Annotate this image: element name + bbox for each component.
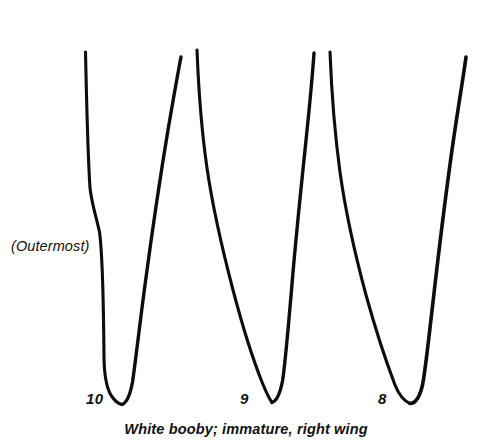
feather-10-leading-edge-path	[86, 52, 123, 405]
feather-number-10: 10	[86, 390, 103, 407]
feather-number-8: 8	[378, 390, 387, 407]
outermost-label: (Outermost)	[11, 238, 89, 254]
feather-9-leading-edge-path	[197, 50, 272, 403]
figure-caption: White booby; immature, right wing	[0, 421, 492, 437]
feather-diagram-figure: (Outermost) 10 9 8 White booby; immature…	[0, 0, 492, 446]
feather-9-trailing-edge-path	[272, 53, 314, 403]
feather-number-9: 9	[240, 390, 249, 407]
feather-8-trailing-edge-path	[410, 57, 466, 404]
feather-outline-illustration	[0, 0, 492, 446]
feather-8-leading-edge-path	[330, 52, 410, 404]
feather-10-trailing-edge-path	[122, 57, 181, 405]
